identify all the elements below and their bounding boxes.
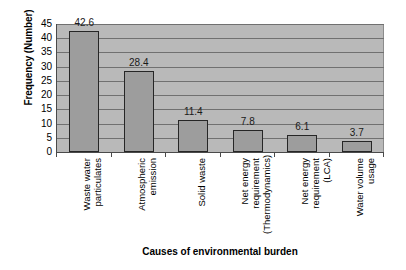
bar-value-label: 11.4 [173,107,213,117]
y-axis-tick-label: 0 [30,147,52,157]
x-axis-category-label-line: Atmospheric [136,158,147,234]
x-axis-tick [329,153,330,157]
x-axis-category-label: Solid waste [196,158,207,234]
x-axis-category-label-line: Net energy [299,158,310,234]
x-axis-ticks [56,153,384,157]
x-axis-tick [165,153,166,157]
bar-value-label: 7.8 [228,117,268,127]
x-axis-category-label-line: (Thermodynamics) [261,158,272,234]
bar-value-label: 28.4 [119,58,159,68]
y-axis-tick-label: 20 [30,90,52,100]
x-axis-tick [220,153,221,157]
x-axis-tick [383,153,384,157]
x-axis-category-label-line: particulates [92,158,103,234]
bar [124,71,154,152]
x-axis-category-label-line: requirement [250,158,261,234]
bar [69,31,99,152]
bar-value-label: 42.6 [64,18,104,28]
y-axis-tick-label: 25 [30,76,52,86]
x-axis-category-label-line: Water volume [354,158,365,234]
bar [233,130,263,152]
x-axis-title: Causes of environmental burden [56,246,384,257]
y-axis-tick-label: 10 [30,119,52,129]
x-axis-category-labels: Waste waterparticulatesAtmosphericemissi… [56,158,384,234]
y-axis-tick-label: 30 [30,62,52,72]
x-axis-category-label-line: Solid waste [196,158,207,234]
bars: 42.628.411.47.86.13.7 [57,24,384,152]
x-axis-category-label: Atmosphericemission [136,158,158,234]
bar-value-label: 6.1 [282,122,322,132]
x-axis-category-label-line: usage [365,158,376,234]
x-axis-category-label: Net energyrequirement(Thermodynamics) [239,158,272,234]
y-axis-tick-label: 5 [30,133,52,143]
bar-chart: Frequency (Number) 051015202530354045 42… [0,0,406,270]
y-axis-tick-label: 15 [30,104,52,114]
x-axis-tick [56,153,57,157]
x-axis-category-label-line: emission [147,158,158,234]
bar [178,120,208,152]
y-axis-tick-labels: 051015202530354045 [30,24,52,152]
x-axis-category-label: Net energyrequirement (LCA) [299,158,332,234]
y-axis-tick-label: 35 [30,47,52,57]
x-axis-tick [111,153,112,157]
bar [287,135,317,152]
plot-area: 42.628.411.47.86.13.7 [56,24,384,153]
y-axis-tick-label: 40 [30,33,52,43]
y-axis-tick-label: 45 [30,19,52,29]
x-axis-category-label-line: requirement (LCA) [310,158,332,234]
x-axis-category-label: Waste waterparticulates [81,158,103,234]
x-axis-category-label-line: Net energy [239,158,250,234]
x-axis-tick [274,153,275,157]
bar-value-label: 3.7 [337,128,377,138]
x-axis-category-label-line: Waste water [81,158,92,234]
bar [342,141,372,152]
x-axis-category-label: Water volumeusage [354,158,376,234]
